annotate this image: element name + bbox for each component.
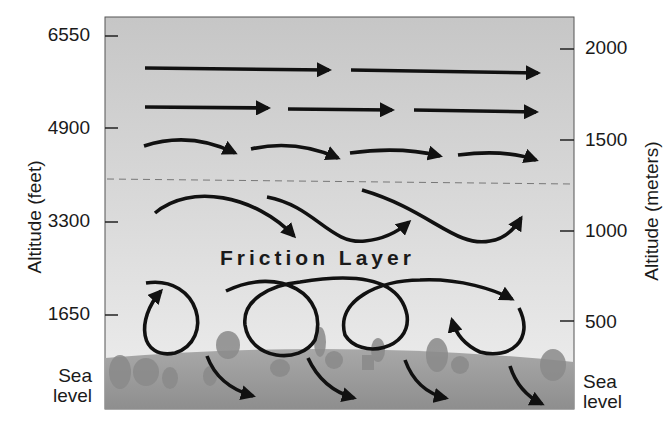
left-tick-1650: 1650 (20, 304, 90, 324)
right-tick-1500: 1500 (585, 130, 627, 150)
left-axis-title: Altitude (feet) (24, 142, 46, 292)
friction-layer-label: Friction Layer (220, 246, 415, 269)
right-tick-1000: 1000 (585, 221, 627, 241)
right-sea-line2: level (583, 392, 622, 412)
right-sea-line1: Sea (583, 372, 622, 392)
right-sea-level-label: Sea level (583, 372, 622, 412)
right-axis-title: Altitude (meters) (641, 126, 663, 296)
friction-layer-diagram: Friction Layer (0, 0, 671, 422)
left-sea-line2: level (52, 386, 92, 406)
left-sea-level-label: Sea level (52, 366, 92, 406)
left-tick-4900: 4900 (20, 118, 90, 138)
left-sea-line1: Sea (52, 366, 92, 386)
left-tick-6550: 6550 (20, 25, 90, 45)
right-tick-500: 500 (585, 312, 617, 332)
right-tick-2000: 2000 (585, 38, 627, 58)
